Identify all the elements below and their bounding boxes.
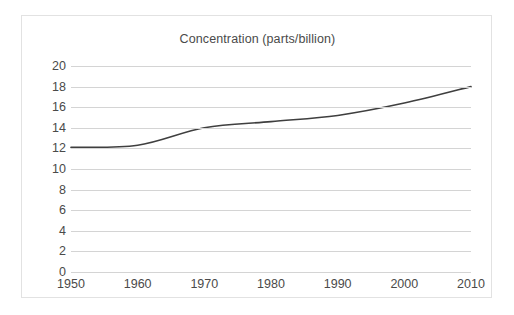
y-tick-label: 16 [32,101,66,114]
y-tick-label: 2 [32,245,66,258]
y-axis: 20181614121086420 [22,66,66,272]
y-tick-label: 18 [32,80,66,93]
y-tick-label: 8 [32,183,66,196]
y-tick-label: 6 [32,204,66,217]
gridline [71,169,471,170]
gridline [71,66,471,67]
gridline [71,190,471,191]
gridline [71,87,471,88]
gridline [71,148,471,149]
gridline [71,231,471,232]
y-tick-label: 12 [32,142,66,155]
gridline [71,210,471,211]
y-tick-label: 4 [32,225,66,238]
x-tick-label: 1970 [190,278,218,291]
chart-container: Concentration (parts/billion) 2018161412… [21,15,492,298]
gridline [71,128,471,129]
x-tick-label: 1980 [257,278,285,291]
gridline [71,107,471,108]
x-tick-label: 1990 [324,278,352,291]
chart-title: Concentration (parts/billion) [22,32,493,46]
x-axis: 1950196019701980199020002010 [71,278,471,298]
x-tick-label: 1960 [124,278,152,291]
y-tick-label: 10 [32,163,66,176]
gridline [71,272,471,273]
x-tick-label: 2010 [457,278,485,291]
data-series-line [71,87,471,148]
plot-area [71,66,471,272]
y-tick-label: 20 [32,60,66,73]
x-tick-label: 1950 [57,278,85,291]
gridline [71,251,471,252]
x-tick-label: 2000 [390,278,418,291]
y-tick-label: 14 [32,122,66,135]
